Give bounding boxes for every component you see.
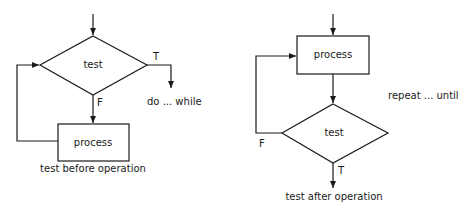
side-label-right: repeat ... until	[388, 90, 459, 102]
caption-left: test before operation	[40, 163, 146, 175]
exit-label-left: do ... while	[147, 96, 202, 108]
process-label-right: process	[314, 49, 352, 61]
loop-back-arrow-left	[17, 65, 58, 141]
true-label-left: T	[153, 51, 159, 63]
caption-right: test after operation	[285, 191, 382, 203]
true-label-right: T	[338, 165, 344, 177]
true-branch-arrow-left	[147, 65, 171, 88]
loop-back-arrow-right	[256, 56, 296, 133]
flowchart-canvas	[0, 0, 464, 211]
decision-label-right: test	[324, 127, 343, 139]
process-label-left: process	[74, 137, 112, 149]
false-label-left: F	[97, 97, 103, 109]
decision-label-left: test	[83, 59, 102, 71]
false-label-right: F	[259, 138, 265, 150]
